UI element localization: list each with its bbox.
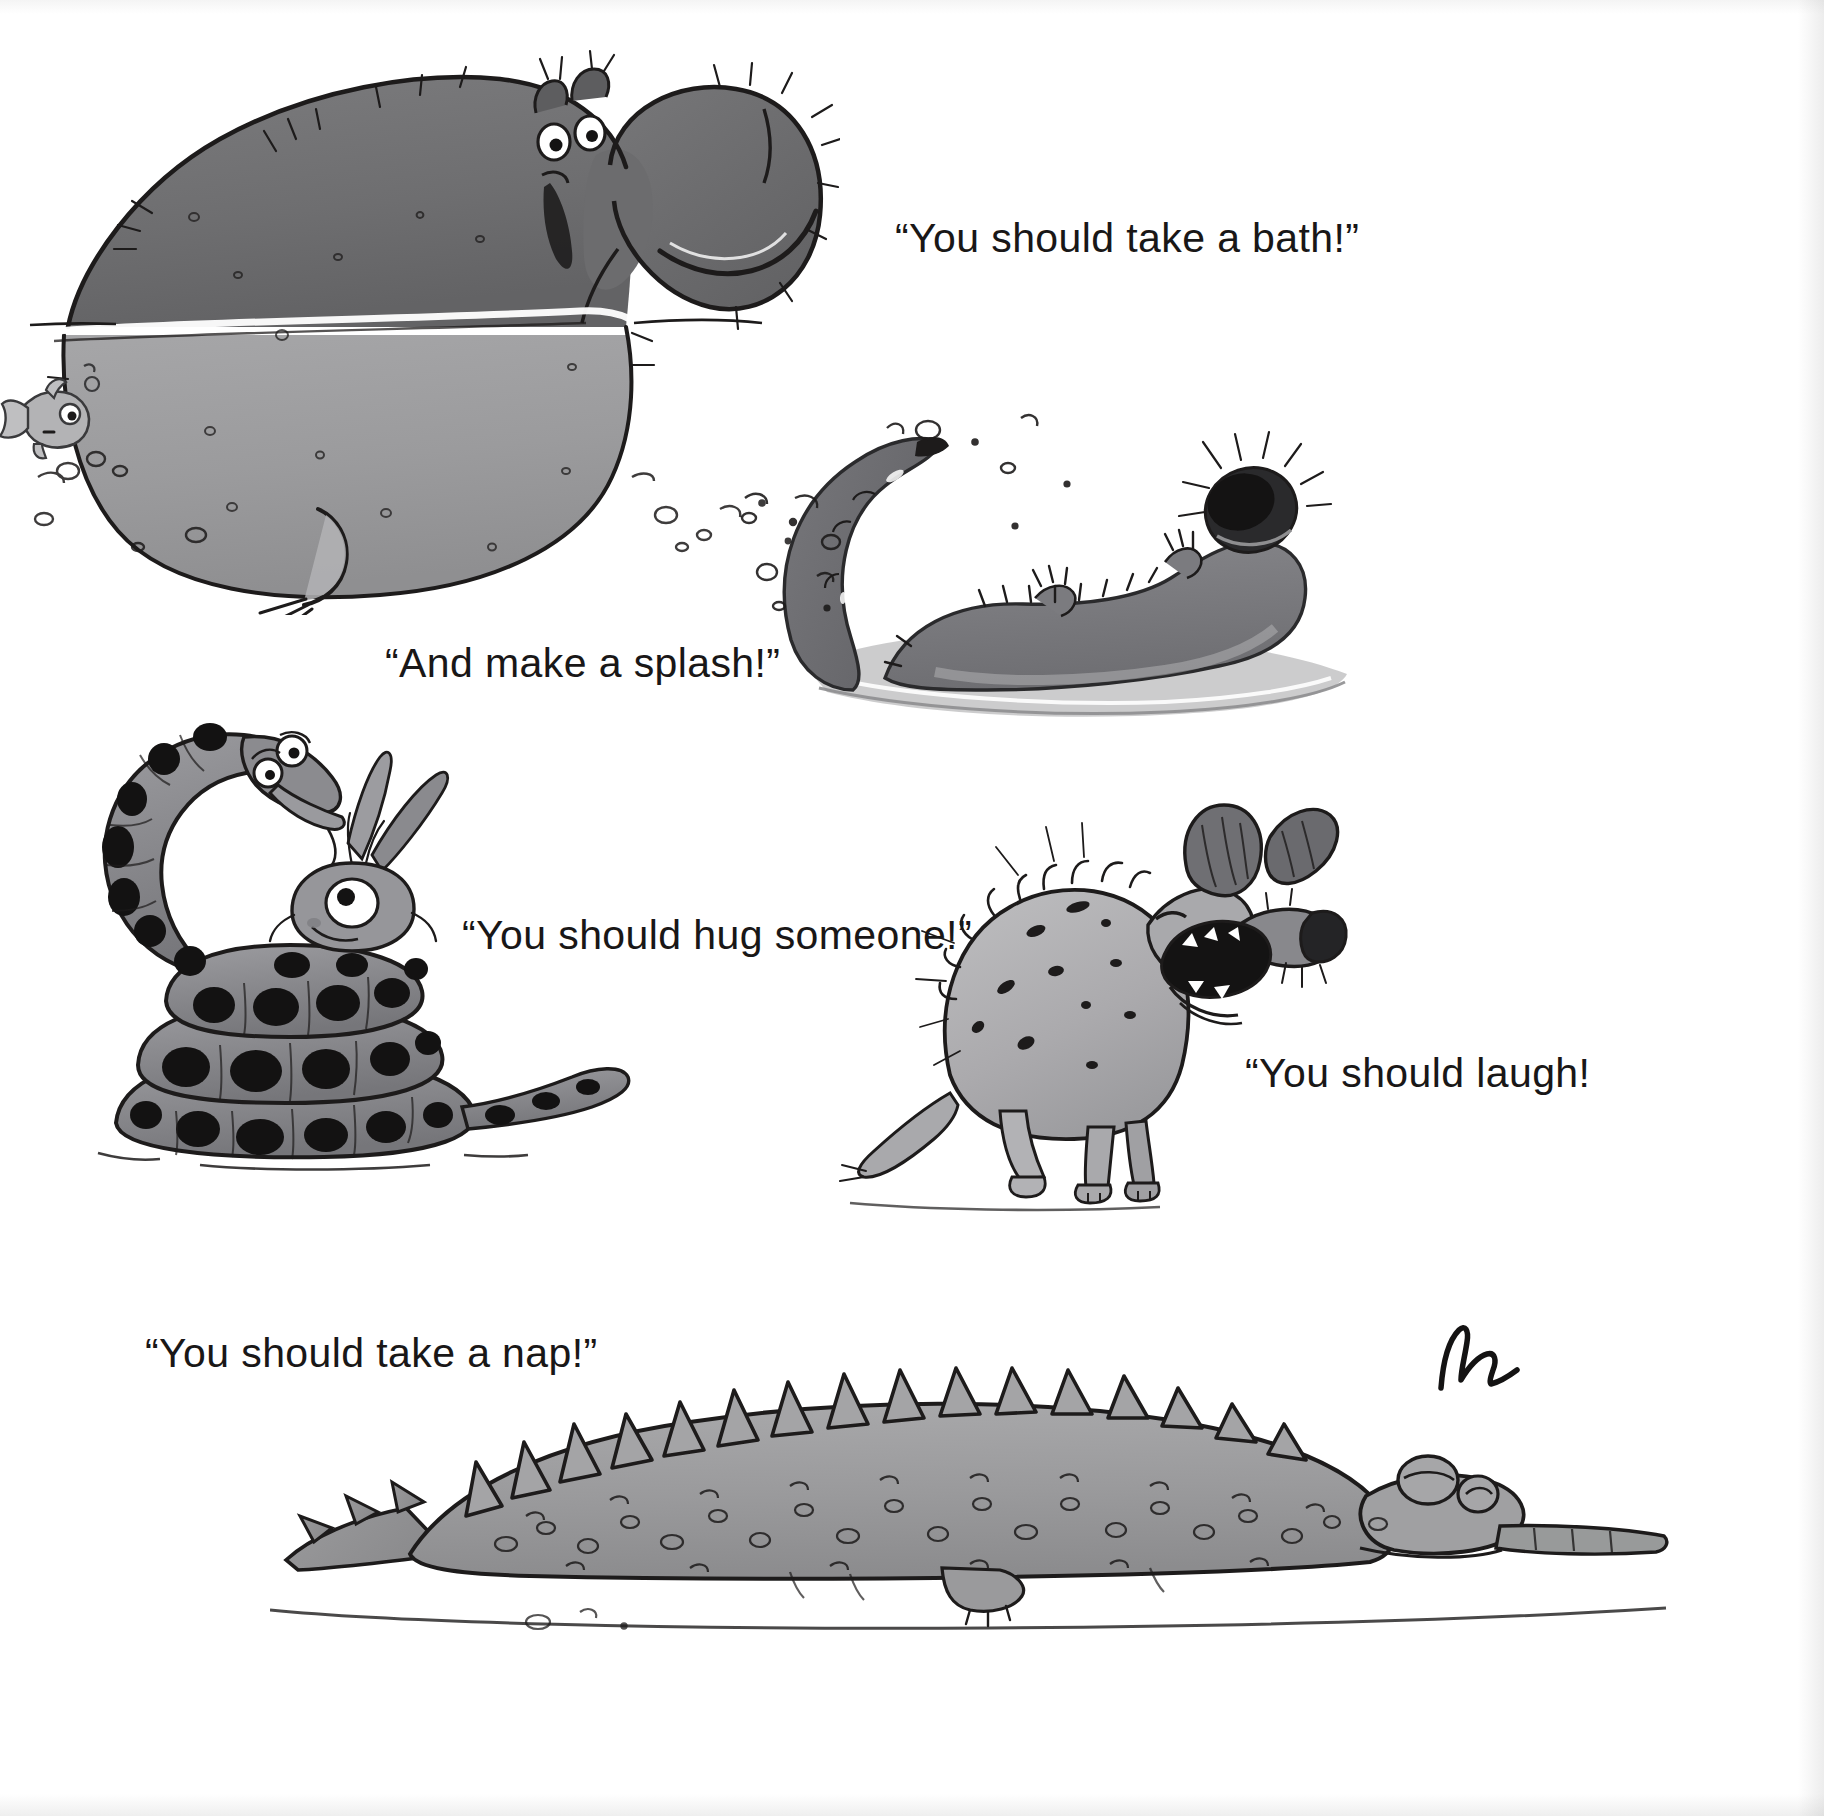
hyena-illustration — [830, 775, 1350, 1215]
book-page: “You should take a bath!” “And make a sp… — [0, 0, 1824, 1816]
caption-take-a-bath: “You should take a bath!” — [895, 215, 1359, 262]
page-bottom-edge-shading — [0, 1794, 1824, 1816]
caption-take-a-nap: “You should take a nap!” — [145, 1330, 598, 1377]
caption-you-should-laugh: “You should laugh! — [1245, 1050, 1590, 1097]
hippo-illustration — [20, 35, 840, 615]
caption-hug-someone: “You should hug someone!” — [462, 912, 972, 959]
page-top-edge-shading — [0, 0, 1824, 14]
caption-make-a-splash: “And make a splash!” — [385, 640, 780, 687]
otter-illustration — [735, 390, 1415, 740]
page-right-edge-shading — [1798, 0, 1824, 1816]
small-fish-illustration — [0, 340, 130, 480]
